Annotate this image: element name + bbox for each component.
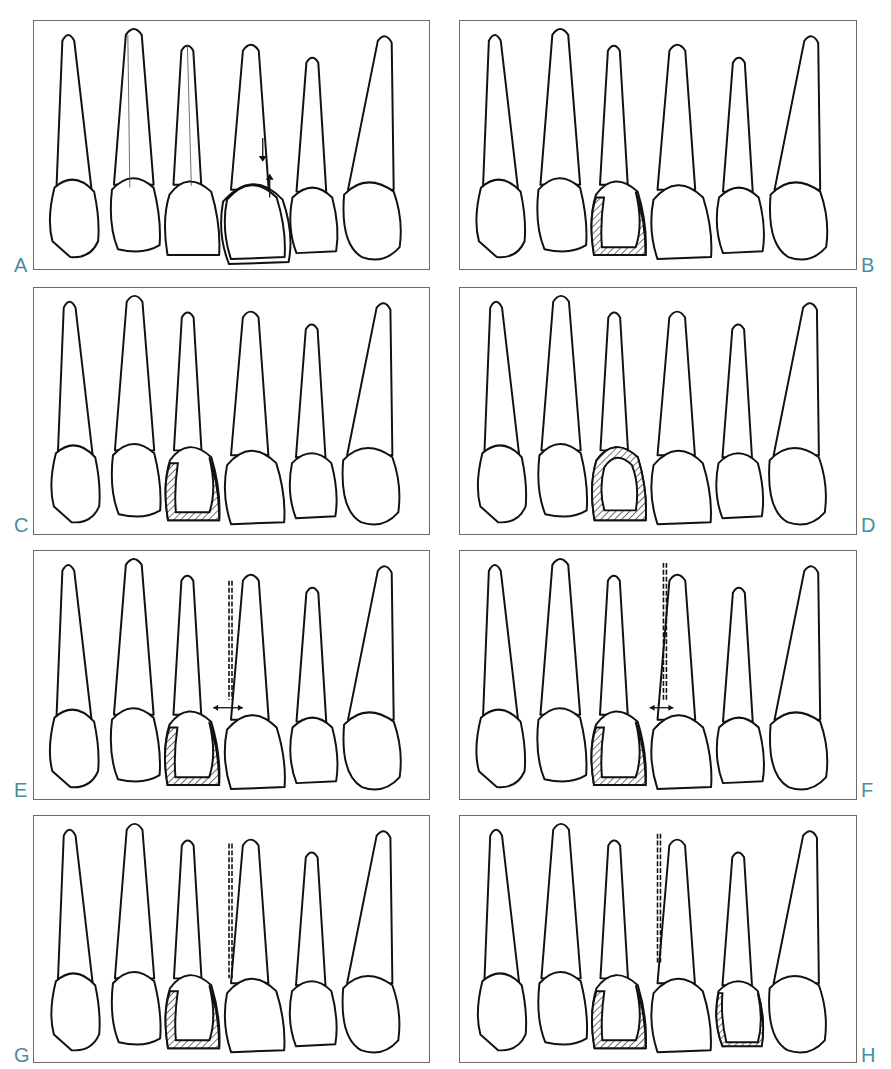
teeth-diagram-g bbox=[34, 816, 429, 1062]
teeth-diagram-e bbox=[34, 551, 429, 799]
teeth-diagram-d bbox=[460, 288, 856, 534]
panel-label-h: H bbox=[861, 1045, 875, 1065]
gap-arrow-icon bbox=[213, 705, 243, 711]
panel-h bbox=[459, 815, 857, 1063]
panel-c bbox=[33, 287, 430, 535]
panel-label-g: G bbox=[14, 1045, 30, 1065]
panel-a bbox=[33, 20, 430, 270]
gauge-line bbox=[229, 581, 232, 700]
teeth-diagram-c bbox=[34, 288, 429, 534]
teeth-diagram-f bbox=[460, 551, 856, 799]
panel-g bbox=[33, 815, 430, 1063]
gauge-line bbox=[229, 844, 232, 979]
panel-label-f: F bbox=[861, 780, 873, 800]
panel-d bbox=[459, 287, 857, 535]
panel-b bbox=[459, 20, 857, 270]
teeth-diagram-a bbox=[34, 21, 429, 269]
panel-label-e: E bbox=[14, 780, 27, 800]
gauge-line bbox=[658, 834, 661, 964]
panel-label-a: A bbox=[14, 255, 27, 275]
panel-label-c: C bbox=[14, 515, 28, 535]
teeth-diagram-h bbox=[460, 816, 856, 1062]
panel-e bbox=[33, 550, 430, 800]
teeth-diagram-b bbox=[460, 21, 856, 269]
panel-label-b: B bbox=[861, 255, 874, 275]
panel-f bbox=[459, 550, 857, 800]
panel-label-d: D bbox=[861, 515, 875, 535]
